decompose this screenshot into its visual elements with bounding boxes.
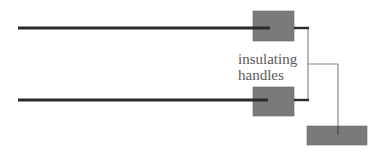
bottom-rod-assembly bbox=[18, 87, 309, 116]
insulating-handles-label-line2: handles bbox=[238, 68, 284, 83]
top-rod-assembly bbox=[18, 11, 309, 41]
insulating-handles-label-line1: insulating bbox=[238, 52, 297, 67]
rods-handles-diagram bbox=[0, 0, 380, 153]
diagram-canvas: insulating handles bbox=[0, 0, 380, 153]
top-insulating-handle bbox=[253, 11, 294, 41]
ground-block bbox=[307, 126, 367, 145]
connecting-wire bbox=[308, 28, 338, 135]
